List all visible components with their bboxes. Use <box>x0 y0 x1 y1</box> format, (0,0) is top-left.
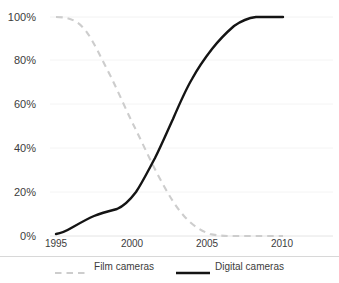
y-tick-label-40: 40% <box>0 143 36 154</box>
x-tick-label-2000: 2000 <box>107 239 157 249</box>
y-tick-label-60: 60% <box>0 99 36 110</box>
legend-label-digital-cameras: Digital cameras <box>215 262 284 272</box>
legend-item-film-cameras[interactable]: Film cameras <box>55 262 154 272</box>
legend-swatch-dashed-line-icon <box>55 263 89 271</box>
y-tick-label-20: 20% <box>0 187 36 198</box>
legend-label-film-cameras: Film cameras <box>94 262 154 272</box>
x-tick-label-2005: 2005 <box>182 239 232 249</box>
chart-svg <box>0 0 339 252</box>
chart-container: 100% 80% 60% 40% 20% 0% 1995 2000 2005 2… <box>0 0 339 283</box>
series-line-digital-cameras <box>56 17 283 234</box>
plot-area: 100% 80% 60% 40% 20% 0% 1995 2000 2005 2… <box>0 0 339 252</box>
x-tick-label-1995: 1995 <box>31 239 81 249</box>
gridlines <box>50 17 333 236</box>
y-tick-label-80: 80% <box>0 55 36 66</box>
x-tick-label-2010: 2010 <box>257 239 307 249</box>
chart-legend: Film cameras Digital cameras <box>0 262 339 272</box>
legend-item-digital-cameras[interactable]: Digital cameras <box>176 262 284 272</box>
legend-swatch-solid-line-icon <box>176 263 210 271</box>
y-tick-label-100: 100% <box>0 12 36 23</box>
legend-separator <box>0 256 339 257</box>
